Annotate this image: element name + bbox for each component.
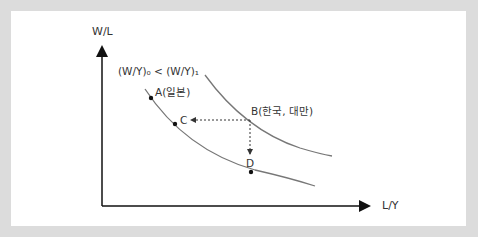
point-d-label: D: [246, 157, 254, 169]
isoquant-diagram: W/L L/Y (W/Y)₀ < (W/Y)₁ A(일본) B(한국, 대만) …: [0, 0, 478, 237]
point-c-label: C: [180, 114, 187, 126]
point-a-label: A(일본): [155, 86, 190, 98]
point-c: [173, 122, 177, 126]
x-axis-label: L/Y: [382, 199, 399, 212]
curve-relation-label: (W/Y)₀ < (W/Y)₁: [118, 65, 199, 77]
point-b-label: B(한국, 대만): [251, 105, 313, 117]
point-a: [149, 96, 153, 100]
y-axis-label: W/L: [92, 25, 114, 38]
point-d: [249, 170, 253, 174]
